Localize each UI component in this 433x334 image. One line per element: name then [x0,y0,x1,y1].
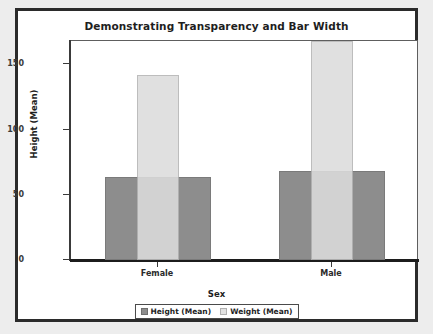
y-tick-label: 50 [13,189,24,198]
y-axis-line [69,40,71,261]
y-tick-label: 0 [18,255,24,264]
plot-area [71,41,417,260]
chart-legend: Height (Mean)Weight (Mean) [134,304,298,319]
legend-label: Height (Mean) [150,307,211,316]
bar-male-weight [311,41,353,260]
legend-swatch-height-icon [140,308,147,315]
x-tick-mark [331,262,332,267]
chart-title: Demonstrating Transparency and Bar Width [18,20,415,32]
plot-frame [70,40,418,260]
x-tick-mark [157,262,158,267]
legend-entry-weight[interactable]: Weight (Mean) [220,307,292,316]
legend-swatch-weight-icon [220,308,227,315]
y-tick-mark [63,194,70,195]
y-tick-mark [63,259,70,260]
legend-label: Weight (Mean) [230,307,292,316]
bar-female-weight [137,75,179,260]
x-axis-title: Sex [18,289,415,299]
legend-entry-height[interactable]: Height (Mean) [140,307,211,316]
x-tick-label-male: Male [320,269,342,278]
y-tick-mark [63,129,70,130]
y-tick-label: 100 [7,124,24,133]
y-tick-label: 150 [7,59,24,68]
y-axis-title: Height (Mean) [29,74,39,174]
chart-card: Demonstrating Transparency and Bar Width… [15,8,418,322]
x-tick-label-female: Female [141,269,173,278]
y-tick-mark [63,63,70,64]
